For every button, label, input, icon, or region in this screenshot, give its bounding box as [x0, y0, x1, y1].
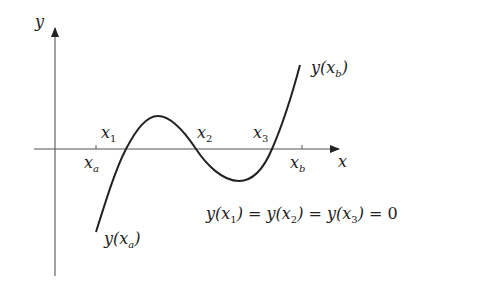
root-label-x2: x2: [197, 123, 212, 144]
root-label-x3: x3: [253, 123, 268, 144]
root-label-x1: x1: [101, 123, 116, 144]
roots-equation: y(x1) = y(x2) = y(x3) = 0: [205, 204, 398, 225]
tick-label-xa: xa: [84, 153, 99, 174]
y-axis-label: y: [34, 12, 45, 31]
x-axis-label: x: [338, 152, 347, 171]
tick-label-xb: xb: [290, 153, 305, 174]
label-y-xb: y(xb): [310, 58, 348, 79]
cubic-roots-diagram: y x xa xb x1 x2 x3 y(xa) y(xb) y(x1) = y…: [0, 0, 482, 282]
label-y-xa: y(xa): [103, 229, 141, 250]
